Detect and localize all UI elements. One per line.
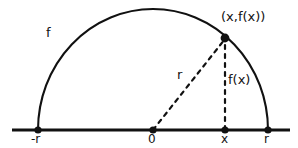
radius-label: r [177,68,182,81]
semicircle-figure: f (x,f(x)) r f(x) -r 0 x r [0,0,298,148]
axis-tick-label-x: x [221,133,228,145]
axis-tick-label-r: r [264,133,269,145]
axis-tick-label-negative-r: -r [31,133,40,145]
height-label: f(x) [228,73,250,86]
semicircle-arc [38,9,268,130]
axis-tick-label-origin: 0 [148,133,156,145]
radius-dashed-line [153,39,225,130]
curve-function-label: f [46,26,51,39]
point-marker-curve-point [221,34,230,43]
curve-point-label: (x,f(x)) [221,10,265,23]
